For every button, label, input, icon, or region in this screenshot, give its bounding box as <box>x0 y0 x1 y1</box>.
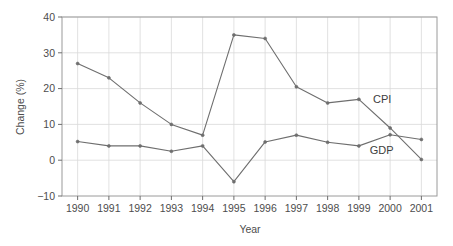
data-point-marker <box>170 150 173 153</box>
y-axis-tick-label: −10 <box>37 190 55 202</box>
data-point-marker <box>139 144 142 147</box>
x-axis-tick-label: 1999 <box>347 202 371 214</box>
y-axis-tick-label: 20 <box>43 82 55 94</box>
data-point-marker <box>295 134 298 137</box>
data-point-marker <box>76 62 79 65</box>
data-point-marker <box>107 144 110 147</box>
x-axis-tick-label: 1993 <box>160 202 184 214</box>
x-axis-tick-label: 1991 <box>97 202 121 214</box>
data-point-marker <box>201 144 204 147</box>
x-axis-tick-label: 1997 <box>285 202 309 214</box>
y-axis-title: Change (%) <box>14 79 26 135</box>
y-axis-tick-label: 40 <box>43 11 55 23</box>
x-axis-tick-label: 1996 <box>253 202 277 214</box>
data-point-marker <box>389 133 392 136</box>
x-axis-tick-label: 2001 <box>410 202 434 214</box>
series-label-cpi: CPI <box>373 93 391 105</box>
data-point-marker <box>107 76 110 79</box>
data-point-marker <box>295 85 298 88</box>
data-point-marker <box>420 158 423 161</box>
x-axis-tick-label: 1994 <box>191 202 215 214</box>
data-point-marker <box>76 140 79 143</box>
line-chart: −10010203040 199019911992199319941995199… <box>0 0 453 246</box>
data-point-marker <box>420 138 423 141</box>
series-label-gdp: GDP <box>370 144 394 156</box>
x-axis-tick-label: 1995 <box>222 202 246 214</box>
x-axis-title: Year <box>239 223 261 235</box>
data-point-marker <box>170 123 173 126</box>
data-point-marker <box>201 134 204 137</box>
y-axis-tick-label: 30 <box>43 47 55 59</box>
data-point-marker <box>232 180 235 183</box>
x-axis-tick-label: 1990 <box>66 202 90 214</box>
y-axis-tick-label: 10 <box>43 118 55 130</box>
x-axis-tick-label: 1992 <box>128 202 152 214</box>
x-axis-tick-label: 2000 <box>378 202 402 214</box>
data-point-marker <box>326 141 329 144</box>
data-point-marker <box>389 126 392 129</box>
data-point-marker <box>264 37 267 40</box>
y-axis-tick-label: 0 <box>49 154 55 166</box>
data-point-marker <box>232 33 235 36</box>
data-point-marker <box>139 101 142 104</box>
data-point-marker <box>357 144 360 147</box>
x-axis-tick-label: 1998 <box>316 202 340 214</box>
data-point-marker <box>357 98 360 101</box>
data-point-marker <box>264 140 267 143</box>
data-point-marker <box>326 101 329 104</box>
chart-canvas: −10010203040 199019911992199319941995199… <box>0 0 453 246</box>
